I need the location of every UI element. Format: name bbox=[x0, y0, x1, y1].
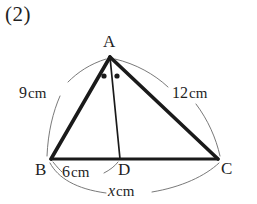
geometry-figure: (2) A B C D 9cm 12cm 6cm xcm bbox=[0, 0, 257, 204]
measure-label-bc: xcm bbox=[108, 183, 134, 199]
side-ac bbox=[110, 57, 218, 159]
measure-label-ac: 12cm bbox=[172, 85, 207, 101]
triangle-sides-group bbox=[51, 57, 218, 159]
measure-label-ab: 9cm bbox=[19, 85, 46, 101]
cevian-ad bbox=[110, 57, 120, 159]
arc-bd-right bbox=[104, 162, 118, 173]
vertex-label-a: A bbox=[103, 33, 115, 50]
measure-bd-unit: cm bbox=[71, 164, 89, 180]
measure-bc-value: x bbox=[108, 182, 115, 199]
measure-bd-value: 6 bbox=[62, 163, 70, 180]
problem-number: (2) bbox=[5, 4, 31, 25]
arc-bc-right bbox=[152, 163, 219, 192]
measure-bc-unit: cm bbox=[116, 183, 134, 199]
angle-bad-dot-icon bbox=[101, 73, 106, 78]
vertex-label-b: B bbox=[35, 161, 46, 178]
angle-dac-dot-icon bbox=[114, 73, 119, 78]
arc-bd-left bbox=[53, 162, 62, 172]
measure-label-bd: 6cm bbox=[62, 164, 89, 180]
measure-ab-value: 9 bbox=[19, 84, 27, 101]
arc-ac-upper bbox=[115, 59, 168, 87]
angle-marks-group bbox=[101, 73, 119, 78]
measure-ab-unit: cm bbox=[28, 85, 46, 101]
side-ab bbox=[51, 57, 110, 159]
vertex-label-c: C bbox=[221, 160, 232, 177]
measure-ac-value: 12 bbox=[172, 84, 188, 101]
measure-ac-unit: cm bbox=[189, 85, 207, 101]
vertex-label-d: D bbox=[118, 161, 130, 178]
